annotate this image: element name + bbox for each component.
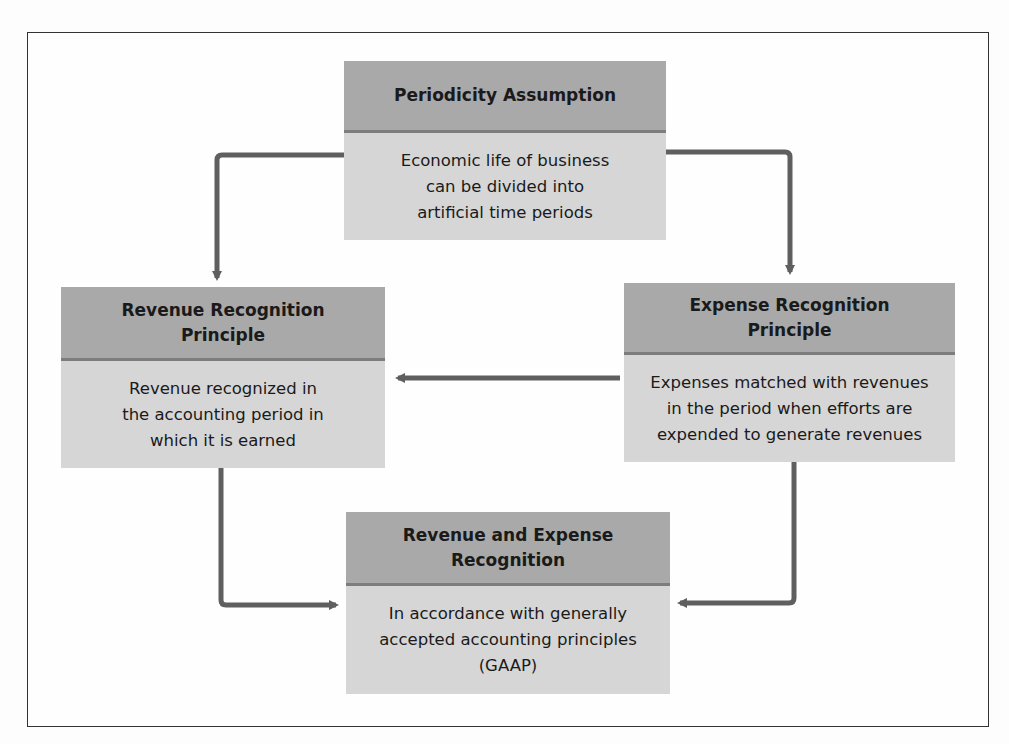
box-description: Expenses matched with revenues in the pe… bbox=[624, 355, 955, 462]
box-title: Expense Recognition Principle bbox=[624, 283, 955, 355]
box-title: Revenue and Expense Recognition bbox=[346, 512, 670, 586]
box-expense-recognition: Expense Recognition Principle Expenses m… bbox=[624, 283, 955, 462]
arrow-periodicity-to-revenue bbox=[217, 155, 344, 278]
box-title: Periodicity Assumption bbox=[344, 61, 666, 133]
box-periodicity-assumption: Periodicity Assumption Economic life of … bbox=[344, 61, 666, 240]
arrow-expense-to-combined bbox=[680, 462, 794, 603]
box-title: Revenue Recognition Principle bbox=[61, 287, 385, 361]
box-revenue-expense-recognition: Revenue and Expense Recognition In accor… bbox=[346, 512, 670, 694]
box-revenue-recognition: Revenue Recognition Principle Revenue re… bbox=[61, 287, 385, 468]
arrow-periodicity-to-expense bbox=[665, 152, 790, 272]
arrow-revenue-to-combined bbox=[221, 468, 336, 605]
box-description: In accordance with generally accepted ac… bbox=[346, 586, 670, 694]
box-description: Economic life of business can be divided… bbox=[344, 133, 666, 240]
box-description: Revenue recognized in the accounting per… bbox=[61, 361, 385, 468]
